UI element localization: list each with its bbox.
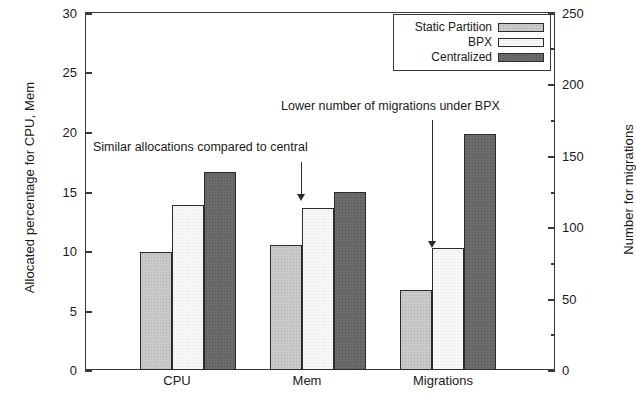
x-tick-label-cpu: CPU (137, 373, 217, 388)
bar-cpu-bpx[interactable] (172, 205, 204, 370)
x-tick-label-mem: Mem (267, 373, 347, 388)
legend-item-centralized[interactable]: Centralized (400, 50, 544, 64)
y-tick-left-0 (85, 370, 92, 372)
annotation-1-arrow-line (301, 162, 302, 195)
legend-item-bpx[interactable]: BPX (400, 35, 544, 49)
bar-migrations-static-partition[interactable] (400, 290, 432, 370)
y-tick-label-right-200: 200 (562, 77, 606, 92)
static-partition-swatch (498, 23, 544, 32)
y-tick-label-left-15: 15 (33, 185, 77, 200)
annotation-2-arrow-line (432, 120, 433, 242)
y-axis-right-title: Number for migrations (621, 65, 636, 315)
y-tick-label-left-10: 10 (33, 244, 77, 259)
y-tick-label-right-0: 0 (562, 363, 606, 378)
legend-label-bpx: BPX (468, 35, 492, 49)
bar-mem-static-partition[interactable] (270, 245, 302, 370)
y-tick-label-left-30: 30 (33, 6, 77, 21)
y-tick-label-right-50: 50 (562, 292, 606, 307)
bar-migrations-centralized[interactable] (464, 134, 496, 370)
y-tick-label-left-25: 25 (33, 65, 77, 80)
legend: Static Partition BPX Centralized (393, 14, 551, 71)
legend-label-static-partition: Static Partition (415, 20, 492, 34)
legend-label-centralized: Centralized (431, 50, 492, 64)
bar-cpu-static-partition[interactable] (140, 252, 172, 370)
bpx-swatch (498, 38, 544, 47)
annotation-lower-migrations: Lower number of migrations under BPX (281, 99, 500, 113)
bar-cpu-centralized[interactable] (204, 172, 236, 370)
bar-mem-centralized[interactable] (334, 192, 366, 370)
y-tick-label-right-100: 100 (562, 220, 606, 235)
legend-item-static-partition[interactable]: Static Partition (400, 20, 544, 34)
x-tick-label-migrations: Migrations (387, 373, 499, 388)
centralized-swatch (498, 53, 544, 62)
y-tick-label-left-5: 5 (33, 304, 77, 319)
y-tick-label-right-150: 150 (562, 149, 606, 164)
annotation-1-arrow-head (297, 194, 305, 201)
annotation-2-arrow-head (428, 241, 436, 248)
bar-mem-bpx[interactable] (302, 208, 334, 370)
y-tick-label-left-20: 20 (33, 125, 77, 140)
annotation-similar-allocations: Similar allocations compared to central (93, 140, 308, 154)
y-tick-label-right-250: 250 (562, 6, 606, 21)
y-tick-right-0 (548, 370, 555, 372)
y-tick-label-left-0: 0 (33, 363, 77, 378)
bar-migrations-bpx[interactable] (432, 248, 464, 370)
